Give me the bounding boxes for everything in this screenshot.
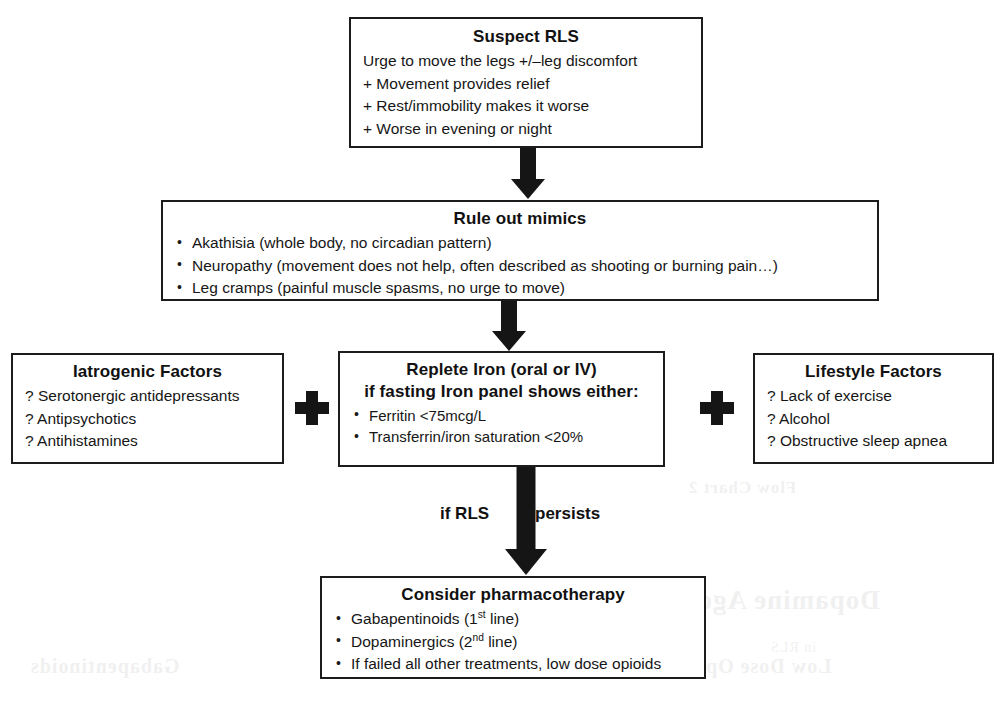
list-item: ? Alcohol [765,408,982,430]
list-item: + Movement provides relief [361,73,691,95]
list-item-pre: If failed all other treatments, low dose… [351,655,661,672]
ordinal-suffix: st [478,609,486,620]
node-lifestyle-factors: Lifestyle Factors ? Lack of exercise ? A… [753,353,994,464]
list-item: ? Antipsychotics [23,408,272,430]
down-arrow-icon-suspect-to-mimics [508,148,548,200]
list-item: Dopaminergics (2nd line) [332,631,694,653]
list-item: Neuropathy (movement does not help, ofte… [173,255,867,277]
node-rule-out-mimics-list: Akathisia (whole body, no circadian patt… [173,232,867,299]
list-item: ? Obstructive sleep apnea [765,430,982,452]
node-iatrogenic-factors-title: Iatrogenic Factors [23,361,272,383]
arrow-head [492,331,526,351]
arrow-shaft [517,467,536,552]
node-suspect-rls-criteria-list: Urge to move the legs +/–leg discomfort … [361,50,691,140]
node-consider-pharmacotherapy: Consider pharmacotherapy Gabapentinoids … [320,576,706,679]
list-item: Urge to move the legs +/–leg discomfort [361,50,691,72]
node-lifestyle-factors-title: Lifestyle Factors [765,361,982,383]
list-item: If failed all other treatments, low dose… [332,653,694,675]
node-suspect-rls-title: Suspect RLS [361,26,691,48]
node-replete-iron-title-line-2: if fasting Iron panel shows either: [350,381,653,403]
list-item: ? Antihistamines [23,430,272,452]
list-item-pre: Gabapentinoids (1 [351,610,478,627]
node-replete-iron-list: Ferritin <75mcg/L Transferrin/iron satur… [350,405,653,449]
list-item: Leg cramps (painful muscle spasms, no ur… [173,277,867,299]
node-replete-iron-title-line-1: Replete Iron (oral or IV) [350,359,653,381]
node-replete-iron: Replete Iron (oral or IV) if fasting Iro… [338,351,665,467]
arrow-head [505,549,547,575]
node-consider-pharmacotherapy-title: Consider pharmacotherapy [332,584,694,606]
list-item-pre: Dopaminergics (2 [351,633,472,650]
edge-label-if-rls: if RLS [440,504,489,524]
arrow-shaft [520,148,536,181]
node-iatrogenic-factors: Iatrogenic Factors ? Serotonergic antide… [11,353,284,464]
bleed-through-artifact-5: in RLS [770,640,816,656]
bleed-through-artifact-1: Flow Chart 2 [688,478,796,498]
arrow-shaft [501,301,517,333]
list-item: ? Serotonergic antidepressants [23,385,272,407]
list-item: + Worse in evening or night [361,118,691,140]
list-item: Gabapentinoids (1st line) [332,608,694,630]
arrow-head [511,179,545,199]
node-rule-out-mimics-title: Rule out mimics [173,208,867,230]
plus-icon-right [700,391,734,425]
down-arrow-icon-iron-to-pharmacotherapy [504,467,548,577]
flowchart-canvas: Flow Chart 2 Dopamine Agonists Low Dose … [0,0,1000,703]
node-iatrogenic-factors-list: ? Serotonergic antidepressants ? Antipsy… [23,385,272,452]
node-suspect-rls: Suspect RLS Urge to move the legs +/–leg… [349,17,703,148]
list-item-post: line) [484,633,518,650]
down-arrow-icon-mimics-to-iron [489,301,529,352]
list-item: + Rest/immobility makes it worse [361,95,691,117]
list-item: ? Lack of exercise [765,385,982,407]
plus-vertical-bar [306,391,318,425]
node-lifestyle-factors-list: ? Lack of exercise ? Alcohol ? Obstructi… [765,385,982,452]
bleed-through-artifact-4: Gabapentinoids [30,655,180,678]
node-rule-out-mimics: Rule out mimics Akathisia (whole body, n… [161,200,879,301]
list-item-post: line) [486,610,520,627]
plus-vertical-bar [711,391,723,425]
ordinal-suffix: nd [472,632,483,643]
node-consider-pharmacotherapy-list: Gabapentinoids (1st line) Dopaminergics … [332,608,694,675]
list-item: Akathisia (whole body, no circadian patt… [173,232,867,254]
list-item: Ferritin <75mcg/L [350,405,653,427]
list-item: Transferrin/iron saturation <20% [350,426,653,448]
plus-icon-left [295,391,329,425]
